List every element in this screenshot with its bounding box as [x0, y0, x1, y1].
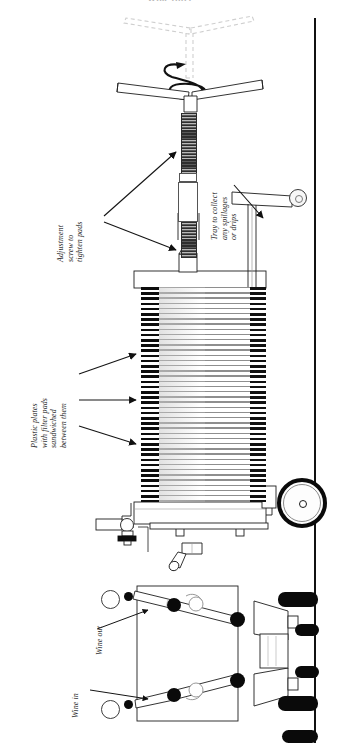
screw-collar	[179, 173, 197, 182]
plan-view-chassis	[254, 601, 298, 706]
label-adjustment-screw: Adjustment screw to tighten pads	[56, 221, 85, 262]
ball-valve-outlet-c	[230, 612, 245, 627]
filter-plate-stack-right	[205, 287, 250, 502]
leader-plastic-plates	[79, 354, 136, 444]
cart-wheel	[277, 478, 327, 528]
figure-canvas: Wine filter	[0, 0, 338, 749]
y-strainer-valve	[167, 543, 202, 573]
press-frame-top	[134, 213, 266, 288]
ball-valve-inlet-b	[167, 688, 181, 702]
ball-valve-inlet-c	[230, 673, 245, 688]
label-wine-in: Wine in	[71, 693, 81, 718]
plan-view-tire-bottom-inner	[295, 666, 319, 678]
threaded-screw-rod-lower	[181, 222, 197, 258]
pressure-gauge-inlet	[101, 700, 120, 719]
plan-view-tire-bottom-outer	[278, 696, 318, 711]
pressure-gauge-outlet	[101, 590, 120, 609]
ball-valve-outlet-a	[124, 592, 133, 601]
ball-valve-inlet-a	[124, 700, 133, 709]
filter-plate-stack-front-edge	[141, 287, 159, 502]
caster-wheel	[289, 189, 307, 207]
leader-adjustment-screw	[104, 152, 176, 250]
label-wine-out: Wine out	[95, 626, 105, 655]
threaded-screw-rod-upper	[181, 113, 197, 173]
label-drip-tray: Tray to collect any spillages or drips	[210, 192, 239, 240]
t-handle-rotated-ghost	[124, 16, 254, 78]
filter-plate-stack-back-edge	[250, 287, 266, 502]
press-base-body	[134, 502, 268, 536]
plan-view-tire-top-outer	[278, 592, 318, 607]
plan-view-tire-top-inner	[295, 624, 319, 636]
ball-valve-outlet-b	[167, 598, 181, 612]
filter-plate-stack-left	[159, 287, 205, 502]
plan-view-tire-far-bottom	[282, 730, 318, 743]
screw-guide-sleeve	[178, 182, 198, 222]
label-plastic-plates: Plastic plates with filter pads sandwich…	[30, 398, 68, 448]
